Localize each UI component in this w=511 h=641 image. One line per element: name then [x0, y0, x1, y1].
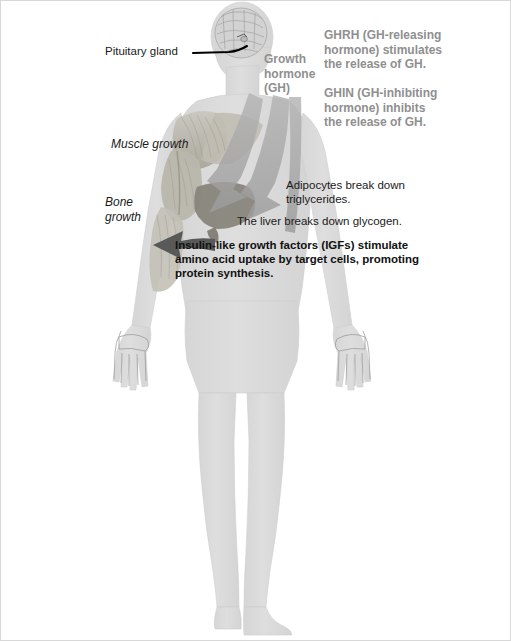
pituitary-gland-structure — [241, 36, 248, 41]
label-ghin: GHIN (GH-inhibiting hormone) inhibits th… — [324, 86, 437, 130]
growth-hormone-diagram: Pituitary gland Growth hormone (GH) GHRH… — [0, 0, 511, 641]
label-pituitary-gland: Pituitary gland — [105, 44, 178, 58]
label-bone-growth: Bone growth — [105, 195, 141, 224]
brain — [215, 8, 267, 58]
label-liver: The liver breaks down glycogen. — [237, 214, 402, 228]
label-adipocytes: Adipocytes break down triglycerides. — [286, 178, 405, 206]
label-igf: Insulin-like growth factors (IGFs) stimu… — [175, 238, 419, 280]
label-growth-hormone: Growth hormone (GH) — [264, 52, 315, 96]
label-ghrh: GHRH (GH-releasing hormone) stimulates t… — [324, 28, 442, 72]
label-muscle-growth: Muscle growth — [111, 137, 188, 152]
